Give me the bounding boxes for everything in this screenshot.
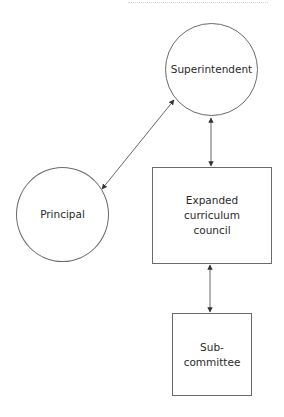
principal-node: Principal — [16, 167, 109, 262]
superintendent-node: Superintendent — [165, 23, 258, 116]
diagram-canvas: Superintendent Principal Expanded curric… — [0, 0, 284, 417]
subcommittee-node: Sub- committee — [172, 313, 252, 396]
expanded-curriculum-council-node: Expanded curriculum council — [152, 167, 272, 264]
principal-label: Principal — [40, 207, 85, 222]
superintendent-label: Superintendent — [171, 62, 252, 77]
council-label: Expanded curriculum council — [184, 193, 240, 238]
subcommittee-label: Sub- committee — [184, 340, 241, 370]
